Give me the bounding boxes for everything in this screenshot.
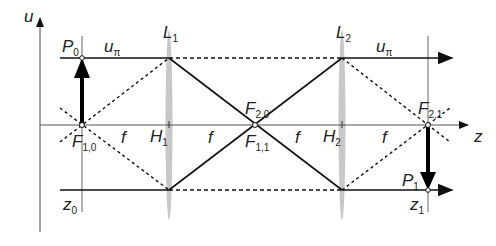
p1-label: P1 bbox=[402, 172, 419, 192]
f20-label: F2,0 bbox=[245, 100, 269, 120]
h1-label: H1 bbox=[150, 128, 168, 148]
z-axis-label: z bbox=[474, 128, 483, 145]
p0-label: P0 bbox=[62, 38, 79, 58]
z0-label: z0 bbox=[63, 196, 77, 216]
f-label-4: f bbox=[382, 129, 387, 146]
u-pi-label-left: uπ bbox=[104, 38, 120, 58]
z1-label: z1 bbox=[410, 196, 424, 216]
l2-label: L2 bbox=[336, 24, 351, 44]
u-axis-label: u bbox=[24, 8, 33, 25]
f-label-2: f bbox=[208, 129, 213, 146]
l1-label: L1 bbox=[163, 24, 178, 44]
f-label-3: f bbox=[295, 129, 300, 146]
f-label-1: f bbox=[121, 129, 126, 146]
f11-label: F1,1 bbox=[245, 133, 269, 153]
f10-label: F1,0 bbox=[72, 133, 96, 153]
u-pi-label-right: uπ bbox=[376, 38, 392, 58]
h2-label: H2 bbox=[323, 128, 341, 148]
f21-label: F2,1 bbox=[418, 100, 442, 120]
